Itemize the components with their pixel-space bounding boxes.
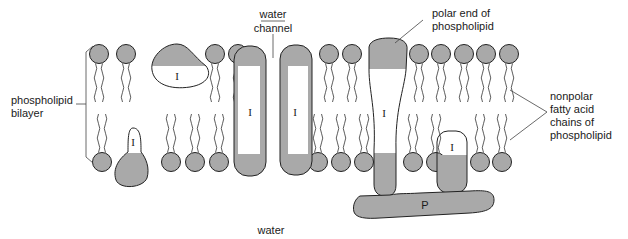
fatty-acid-tail: [408, 114, 411, 153]
fatty-acid-tail: [347, 64, 350, 103]
fatty-acid-tail: [221, 114, 224, 153]
fatty-acid-tail: [438, 114, 441, 153]
fatty-acid-tail: [504, 114, 507, 153]
integral-protein-label: I: [175, 70, 179, 82]
integral-protein-bottom-right: I: [437, 131, 467, 195]
peripheral-protein-label: P: [421, 199, 428, 211]
fatty-acid-tail: [190, 114, 193, 153]
fatty-acid-tail: [94, 64, 97, 103]
nonpolar-label-4: phospholipid: [550, 129, 612, 141]
fatty-acid-tail: [511, 64, 514, 103]
polar-head: [320, 45, 339, 64]
polar-head: [471, 153, 490, 172]
polar-end-label-2: phospholipid: [432, 20, 494, 32]
fatty-acid-tail: [488, 64, 491, 103]
fatty-acid-tail: [97, 114, 100, 153]
fatty-acid-tail: [443, 64, 446, 103]
polar-head: [90, 45, 109, 64]
diagram-canvas: I I I I I I P: [0, 0, 628, 239]
integral-protein-channel-right: I: [280, 45, 312, 175]
polar-head: [500, 45, 519, 64]
polar-head: [355, 153, 374, 172]
peripheral-protein: P: [353, 191, 494, 219]
polar-head: [455, 45, 474, 64]
fatty-acid-tail: [121, 64, 124, 103]
bilayer-label-2: bilayer: [11, 107, 44, 119]
integral-protein-top-left: I: [145, 40, 215, 88]
fatty-acid-tail: [343, 114, 346, 153]
fatty-acid-tail: [166, 114, 169, 153]
nonpolar-label-1: nonpolar: [550, 90, 593, 102]
fatty-acid-tail: [104, 114, 107, 153]
fatty-acid-tail: [101, 64, 104, 103]
polar-head: [477, 45, 496, 64]
fatty-acid-tail: [210, 64, 213, 103]
fatty-acid-tail: [197, 114, 200, 153]
fatty-acid-tail: [359, 114, 362, 153]
polar-end-label-1: polar end of: [432, 7, 491, 19]
polar-end-leader: [395, 20, 423, 43]
fatty-acid-tail: [466, 64, 469, 103]
integral-protein-label: I: [248, 106, 252, 118]
integral-protein-label: I: [382, 107, 386, 119]
polar-head: [343, 45, 362, 64]
fatty-acid-tail: [331, 64, 334, 103]
polar-head: [493, 153, 512, 172]
fatty-acid-tail: [324, 64, 327, 103]
integral-protein-label: I: [293, 106, 297, 118]
fatty-acid-tail: [421, 64, 424, 103]
fatty-acid-tail: [128, 64, 131, 103]
fatty-acid-tail: [481, 64, 484, 103]
bilayer-label-1: phospholipid: [11, 94, 73, 106]
fatty-acid-tail: [173, 114, 176, 153]
fatty-acid-tail: [214, 114, 217, 153]
water-bottom-label: water: [257, 224, 285, 236]
water-channel-label-1: water: [259, 8, 287, 20]
fatty-acid-tail: [504, 64, 507, 103]
polar-head: [432, 45, 451, 64]
fatty-acid-tail: [497, 114, 500, 153]
polar-head: [410, 45, 429, 64]
fatty-acid-tail: [366, 114, 369, 153]
fatty-acid-tail: [313, 114, 316, 153]
fatty-acid-tail: [336, 114, 339, 153]
nonpolar-label-3: chains of: [550, 116, 595, 128]
fatty-acid-tail: [431, 114, 434, 153]
polar-head: [186, 153, 205, 172]
fatty-acid-tail: [482, 114, 485, 153]
nonpolar-label-2: fatty acid: [550, 103, 594, 115]
nonpolar-leader: [510, 90, 547, 140]
polar-head: [93, 153, 112, 172]
polar-head: [332, 153, 351, 172]
membrane-diagram: I I I I I I P: [0, 0, 628, 239]
integral-protein-label: I: [131, 136, 135, 148]
bilayer-bracket: [86, 46, 93, 163]
fatty-acid-tail: [354, 64, 357, 103]
fatty-acid-tail: [475, 114, 478, 153]
fatty-acid-tail: [415, 114, 418, 153]
polar-head: [404, 153, 423, 172]
integral-protein-label: I: [450, 141, 454, 153]
fatty-acid-tail: [436, 64, 439, 103]
water-channel-label-2: channel: [254, 22, 293, 34]
polar-head: [162, 153, 181, 172]
fatty-acid-tail: [320, 114, 323, 153]
fatty-acid-tail: [459, 64, 462, 103]
polar-head: [210, 153, 229, 172]
fatty-acid-tail: [217, 64, 220, 103]
integral-protein-channel-left: I: [234, 46, 266, 176]
fatty-acid-tail: [414, 64, 417, 103]
polar-head: [117, 45, 136, 64]
polar-head: [206, 45, 225, 64]
integral-protein-bottom-left: I: [110, 128, 155, 193]
